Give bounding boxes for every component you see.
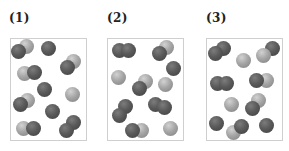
dark-particle-icon xyxy=(45,104,60,119)
dark-particle-icon xyxy=(27,65,42,80)
dark-particle-icon xyxy=(112,108,127,123)
dark-particle-icon xyxy=(59,123,74,138)
dark-particle-icon xyxy=(249,73,264,88)
dark-particle-icon xyxy=(219,76,234,91)
dark-particle-icon xyxy=(11,44,26,59)
dark-particle-icon xyxy=(208,46,223,61)
light-particle-icon xyxy=(158,77,173,92)
dark-particle-icon xyxy=(121,43,136,58)
dark-particle-icon xyxy=(259,118,274,133)
dark-particle-icon xyxy=(234,119,249,134)
panel-label-3: (3) xyxy=(206,11,227,25)
dark-particle-icon xyxy=(209,116,224,131)
dark-particle-icon xyxy=(13,97,28,112)
dark-particle-icon xyxy=(157,100,172,115)
dark-particle-icon xyxy=(41,41,56,56)
panel-label-1: (1) xyxy=(9,11,30,25)
dark-particle-icon xyxy=(37,82,52,97)
dark-particle-icon xyxy=(60,60,75,75)
light-particle-icon xyxy=(236,53,251,68)
panel-label-2: (2) xyxy=(107,11,128,25)
dark-particle-icon xyxy=(245,101,260,116)
dark-particle-icon xyxy=(26,121,41,136)
dark-particle-icon xyxy=(132,81,147,96)
light-particle-icon xyxy=(111,70,126,85)
dark-particle-icon xyxy=(152,46,167,61)
dark-particle-icon xyxy=(166,61,181,76)
dark-particle-icon xyxy=(125,123,140,138)
light-particle-icon xyxy=(224,97,239,112)
light-particle-icon xyxy=(256,48,271,63)
light-particle-icon xyxy=(65,87,80,102)
light-particle-icon xyxy=(163,121,178,136)
